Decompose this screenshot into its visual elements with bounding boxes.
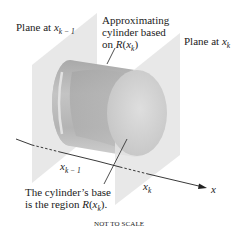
label-plane-right: Plane at xk — [184, 35, 230, 52]
label-axis-x: x — [211, 183, 216, 195]
label-cylinder-line3: on R(xk) — [102, 38, 169, 55]
label-sub: k — [227, 41, 230, 50]
label-text: Plane at — [16, 21, 54, 33]
t: ) — [134, 38, 138, 50]
label-text: Plane at — [184, 35, 222, 47]
t: on — [102, 38, 116, 50]
label-cylinder-line2: cylinder based — [102, 26, 169, 38]
t: ). — [101, 198, 107, 210]
label-axis-tick-left: xk − 1 — [60, 160, 81, 177]
x-axis-segment-right — [148, 174, 203, 187]
x-axis-arrow-icon — [198, 184, 207, 190]
label-base-line2: is the region R(xk). — [25, 198, 111, 215]
t: k − 1 — [65, 166, 81, 175]
label-axis-tick-right: xk — [143, 180, 151, 197]
label-sub: k − 1 — [59, 27, 75, 36]
label-base: The cylinder’s base is the region R(xk). — [25, 186, 111, 215]
t: k — [148, 186, 151, 195]
label-cylinder-line1: Approximating — [102, 14, 169, 26]
label-cylinder: Approximating cylinder based on R(xk) — [102, 14, 169, 55]
label-plane-left: Plane at xk − 1 — [16, 21, 75, 38]
t: R — [82, 198, 89, 210]
label-base-line1: The cylinder’s base — [25, 186, 111, 198]
cylinder-base-face — [107, 70, 167, 156]
x-axis-segment-left — [16, 139, 32, 145]
label-footer: NOT TO SCALE — [94, 218, 144, 230]
cylinder-slice-diagram: Plane at xk − 1 Approximating cylinder b… — [0, 0, 238, 233]
t: is the region — [25, 198, 82, 210]
